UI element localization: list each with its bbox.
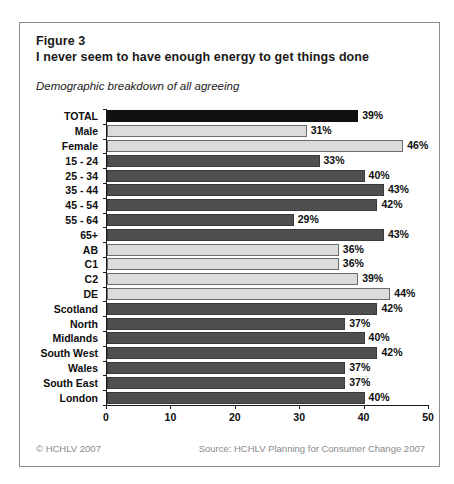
y-axis-tick [103, 242, 106, 243]
category-label: Scotland [54, 304, 98, 315]
y-axis-tick [103, 361, 106, 362]
bar-row: 44% [107, 288, 429, 300]
bar-row: 40% [107, 332, 429, 344]
figure-label: Figure 3 [36, 33, 427, 49]
bar-row: 46% [107, 140, 429, 152]
bar [107, 377, 345, 389]
bar-value-label: 44% [394, 287, 415, 300]
figure-footer: © HCHLV 2007 Source: HCHLV Planning for … [36, 443, 425, 457]
y-axis-tick [103, 316, 106, 317]
x-axis-tick [170, 405, 171, 409]
category-label: Male [75, 126, 98, 137]
bar-value-label: 37% [349, 361, 370, 374]
y-axis-tick [103, 375, 106, 376]
category-label: Wales [68, 363, 98, 374]
figure-card: Figure 3 I never seem to have enough ene… [19, 22, 440, 467]
bar [107, 288, 390, 300]
bar [107, 362, 345, 374]
bar-row: 31% [107, 125, 429, 137]
bar-row: 43% [107, 229, 429, 241]
bar-value-label: 42% [381, 198, 402, 211]
bar [107, 110, 358, 122]
y-axis-tick [103, 227, 106, 228]
bar-value-label: 43% [388, 183, 409, 196]
x-axis-tick-label: 30 [293, 411, 305, 423]
x-axis-tick-label: 50 [422, 411, 434, 423]
category-label: C1 [85, 259, 98, 270]
x-axis-tick-label: 40 [358, 411, 370, 423]
category-label: North [70, 319, 98, 330]
y-axis-tick [103, 109, 106, 110]
bar-value-label: 43% [388, 228, 409, 241]
bar-value-label: 29% [298, 213, 319, 226]
bar [107, 170, 365, 182]
bar-row: 39% [107, 273, 429, 285]
bar-value-label: 36% [343, 243, 364, 256]
y-axis-tick [103, 346, 106, 347]
source-text: Source: HCHLV Planning for Consumer Chan… [199, 443, 425, 455]
bar-row: 37% [107, 362, 429, 374]
bar-row: 37% [107, 318, 429, 330]
y-axis-tick [103, 287, 106, 288]
category-label: South East [43, 378, 98, 389]
bar-row: 40% [107, 392, 429, 404]
bar-value-label: 37% [349, 317, 370, 330]
bar-value-label: 37% [349, 376, 370, 389]
y-axis-tick [103, 198, 106, 199]
figure-header: Figure 3 I never seem to have enough ene… [36, 33, 427, 93]
bar-value-label: 31% [311, 124, 332, 137]
bar [107, 184, 384, 196]
y-axis-tick [103, 331, 106, 332]
x-axis-line [106, 405, 428, 406]
x-axis-tick [364, 405, 365, 409]
bar-value-label: 40% [369, 391, 390, 404]
y-axis-tick [103, 301, 106, 302]
category-label: 65+ [80, 230, 98, 241]
category-label: TOTAL [64, 111, 98, 122]
x-axis-tick-label: 10 [165, 411, 177, 423]
bar-value-label: 33% [324, 154, 345, 167]
bar [107, 318, 345, 330]
bar [107, 347, 377, 359]
bar-row: 37% [107, 377, 429, 389]
category-label: 55 - 64 [65, 215, 98, 226]
bar-value-label: 39% [362, 109, 383, 122]
bar-chart: TOTALMaleFemale15 - 2425 - 3435 - 4445 -… [36, 109, 428, 427]
category-label: DE [83, 289, 98, 300]
category-label: Female [62, 141, 98, 152]
y-axis-tick [103, 124, 106, 125]
bar [107, 332, 365, 344]
bar-row: 39% [107, 110, 429, 122]
bar-row: 29% [107, 214, 429, 226]
category-label: 25 - 34 [65, 171, 98, 182]
bar-row: 42% [107, 347, 429, 359]
bar [107, 244, 339, 256]
bar-value-label: 39% [362, 272, 383, 285]
bar-row: 36% [107, 258, 429, 270]
figure-title: I never seem to have enough energy to ge… [36, 49, 427, 65]
copyright-text: © HCHLV 2007 [36, 443, 101, 455]
x-axis-tick [299, 405, 300, 409]
bar-value-label: 40% [369, 169, 390, 182]
y-axis-tick [103, 139, 106, 140]
x-axis-tick [106, 405, 107, 409]
category-label: London [60, 393, 98, 404]
category-label: AB [83, 245, 98, 256]
category-label: 15 - 24 [65, 156, 98, 167]
bar-row: 33% [107, 155, 429, 167]
bar [107, 155, 320, 167]
bar-row: 40% [107, 170, 429, 182]
category-label: Midlands [52, 333, 98, 344]
y-axis-tick [103, 390, 106, 391]
y-axis-tick [103, 257, 106, 258]
x-axis-tick [235, 405, 236, 409]
category-axis-labels: TOTALMaleFemale15 - 2425 - 3435 - 4445 -… [36, 109, 102, 405]
bar [107, 258, 339, 270]
bar-value-label: 36% [343, 257, 364, 270]
bars-region: 39%31%46%33%40%43%42%29%43%36%36%39%44%4… [106, 109, 428, 405]
bar [107, 229, 384, 241]
x-axis-tick-label: 0 [103, 411, 109, 423]
category-label: C2 [85, 274, 98, 285]
bar [107, 273, 358, 285]
figure-subtitle: Demographic breakdown of all agreeing [36, 79, 427, 93]
